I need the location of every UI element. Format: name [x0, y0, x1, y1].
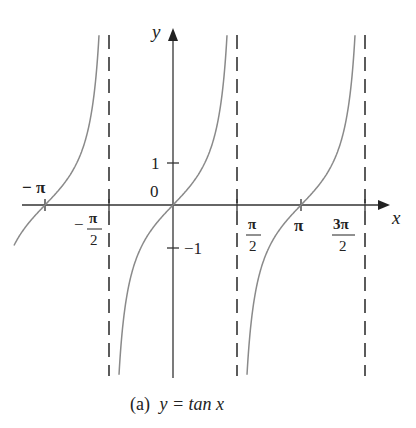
x-tick-label-pi-over-2-num: π: [248, 216, 257, 232]
y-axis-arrow-icon: [168, 28, 178, 41]
x-tick-label-neg-pi-over-2-den: 2: [90, 232, 98, 248]
x-tick-label-3pi-over-2-num: 3π: [333, 216, 350, 232]
caption-prefix: (a): [130, 394, 150, 415]
x-tick-label-neg-pi-over-2-sign: −: [74, 215, 84, 234]
axes: [22, 28, 390, 378]
x-tick-label-3pi-over-2-den: 2: [339, 238, 347, 254]
caption: (a) y = tan x: [130, 394, 224, 415]
x-tick-label-neg-pi-over-2-num: π: [89, 210, 98, 226]
x-tick-label-neg-pi: − π: [22, 178, 46, 197]
caption-formula: y = tan x: [157, 394, 224, 414]
origin-label: 0: [150, 182, 159, 201]
x-axis-label: x: [391, 207, 401, 228]
x-tick-label-pi-over-2-den: 2: [249, 238, 257, 254]
y-tick-label-neg-1: −1: [184, 239, 202, 258]
x-tick-label-pi: π: [294, 216, 304, 235]
tan-branch-left: [14, 35, 99, 245]
y-axis-label: y: [150, 21, 161, 42]
y-tick-label-1: 1: [151, 154, 160, 173]
tan-graph: y x 0 1 −1 − π − π 2 π 2 π 3π 2 (a) y = …: [0, 0, 416, 428]
x-axis-arrow-icon: [378, 200, 390, 210]
